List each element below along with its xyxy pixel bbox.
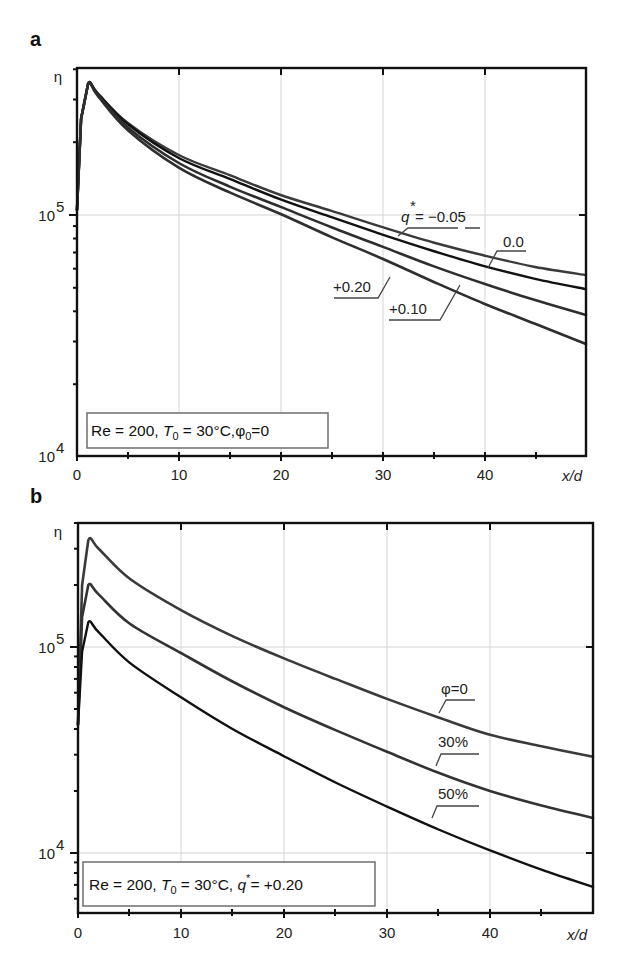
panel-b-curves [78,538,593,887]
y-tick-label-1e4: 10 [38,845,55,862]
leader-line [439,700,475,713]
panel-b-letter: b [30,485,42,507]
x-tick-label: 10 [171,466,188,483]
x-tick-label: 40 [477,466,494,483]
leader-line [436,754,479,766]
panel-b-chart: b [30,485,593,943]
x-tick-label: 0 [73,466,81,483]
y-tick-exp-1e4: 4 [56,836,64,853]
data-series-curve [77,82,586,289]
curve-label-q: q [401,208,410,225]
x-axis-label: x/d [561,467,583,484]
x-tick-label: 30 [379,924,396,941]
panel-b-curve-labels: φ=0 30% 50% [432,680,479,818]
leader-line [488,251,526,268]
y-tick-exp-1e5: 5 [56,198,64,215]
x-tick-label: 0 [74,924,82,941]
panel-a-curves [77,82,586,344]
condition-text-b: Re = 200, T0 = 30°C, q*= +0.20 [89,872,303,896]
y-axis-label: η [54,523,62,540]
curve-label-q-minus005: = −0.05 [415,208,466,225]
panel-a-x-tick-labels: 0 10 20 30 40 x/d [73,466,583,484]
panel-a-chart: a [30,28,586,484]
x-tick-label: 20 [276,924,293,941]
panel-b-axes-frame [78,523,593,913]
curve-label-phi0: φ=0 [441,680,468,697]
curve-label-30: 30% [438,733,468,750]
y-tick-label-1e5: 10 [38,639,55,656]
leader-line [432,806,479,818]
y-tick-label-1e4: 10 [38,448,55,465]
panel-a-x-ticks [77,68,586,461]
data-series-curve [78,621,593,887]
y-tick-label-1e5: 10 [38,207,55,224]
curve-label-zero: 0.0 [503,233,524,250]
panel-a-letter: a [30,28,42,50]
figure: a [0,0,621,980]
panel-b-condition-box: Re = 200, T0 = 30°C, q*= +0.20 [83,862,375,906]
y-axis-label: η [54,68,62,85]
panel-a-condition-box: Re = 200, T0 = 30°C,φ0=0 [87,413,328,448]
panel-b-y-tick-labels: η 10 5 10 4 [38,523,64,862]
y-tick-exp-1e5: 5 [56,630,64,647]
panel-b-x-tick-labels: 0 10 20 30 40 x/d [74,924,588,943]
curve-label-50: 50% [438,785,468,802]
panel-b-gridlines [78,523,593,913]
data-series-curve [77,82,586,344]
data-series-curve [77,82,586,315]
x-axis-label: x/d [566,926,588,943]
x-tick-label: 20 [273,466,290,483]
x-tick-label: 30 [375,466,392,483]
panel-b-x-ticks [78,523,593,918]
y-tick-exp-1e4: 4 [56,439,64,456]
x-tick-label: 10 [173,924,190,941]
x-tick-label: 40 [482,924,499,941]
curve-label-plus010: +0.10 [389,300,427,317]
curve-label-plus020: +0.20 [333,278,371,295]
panel-a-y-tick-labels: η 10 5 10 4 [38,68,64,465]
